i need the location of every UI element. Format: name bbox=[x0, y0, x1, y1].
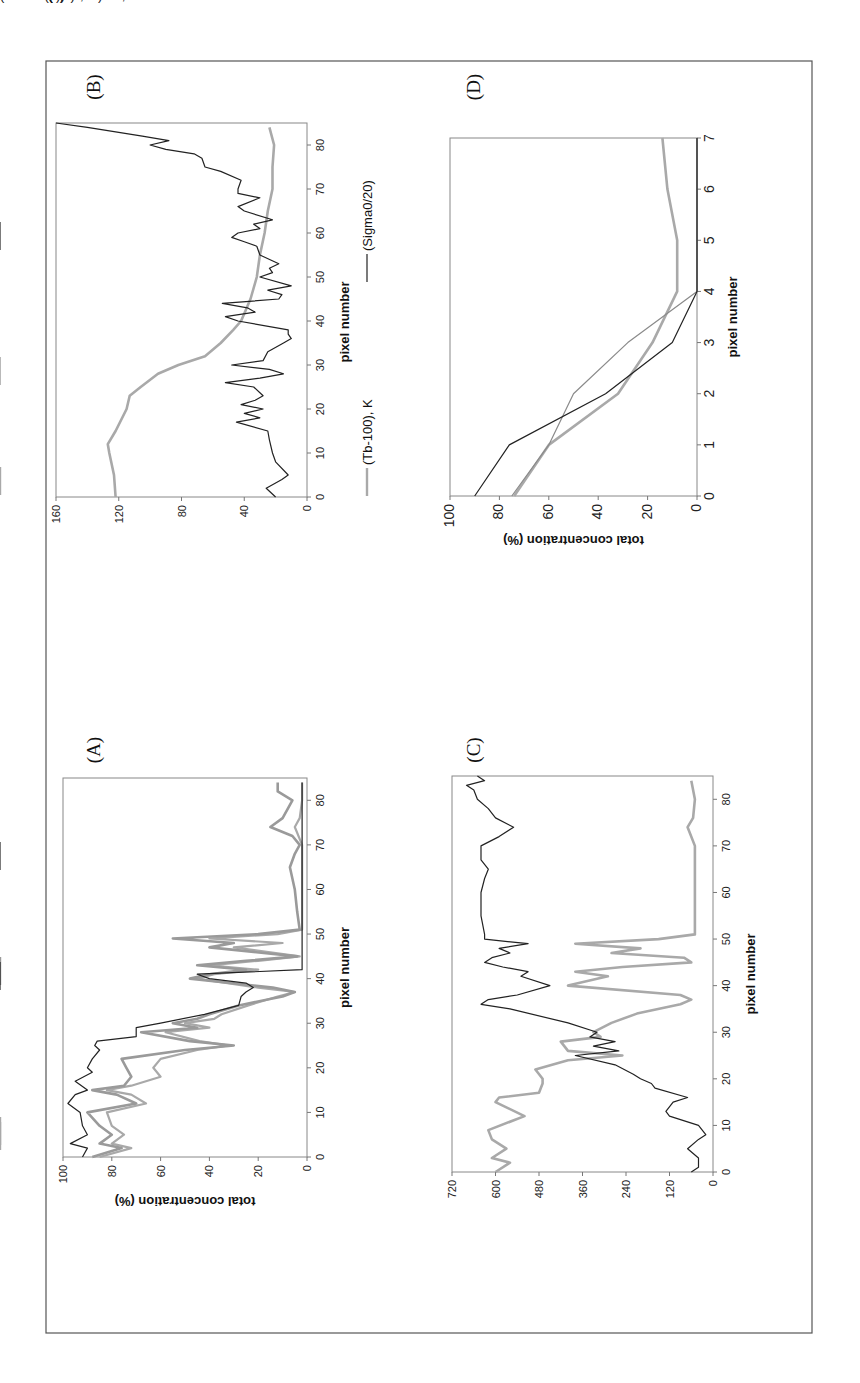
plot-area bbox=[450, 138, 697, 496]
value-tick-label: 80 bbox=[490, 504, 506, 520]
pixel-tick-label: 0 bbox=[720, 1169, 732, 1175]
pixel-tick-label: 50 bbox=[720, 933, 732, 945]
panel-label-c: (C) bbox=[463, 737, 485, 762]
pixel-tick-label: 80 bbox=[314, 794, 326, 806]
legend-label: OKEAN bbox=[0, 0, 46, 3]
x-axis-label: pixel number bbox=[725, 277, 740, 358]
value-tick-label: 60 bbox=[540, 504, 556, 520]
pixel-tick-label: 0 bbox=[314, 494, 326, 500]
pixel-tick-label: 20 bbox=[314, 1062, 326, 1074]
value-tick-label: 480 bbox=[533, 1180, 545, 1198]
value-tick-label: 40 bbox=[203, 1165, 215, 1177]
value-tick-label: 100 bbox=[441, 504, 457, 528]
pixel-tick-label: 0 bbox=[701, 492, 717, 500]
value-tick-label: 80 bbox=[176, 505, 188, 517]
value-tick-label: 0 bbox=[301, 1165, 313, 1171]
pixel-tick-label: 6 bbox=[701, 185, 717, 193]
chart-panel-b: 0408012016001020304050607080pixel number… bbox=[50, 123, 375, 523]
legend-label: (Tb-100), K bbox=[360, 399, 375, 465]
value-tick-label: 20 bbox=[639, 504, 655, 520]
pixel-tick-label: 4 bbox=[701, 287, 717, 295]
pixel-tick-label: 7 bbox=[701, 134, 717, 142]
pixel-tick-label: 80 bbox=[314, 139, 326, 151]
value-tick-label: 120 bbox=[113, 505, 125, 523]
value-tick-label: 240 bbox=[620, 1180, 632, 1198]
pixel-tick-label: 10 bbox=[314, 1106, 326, 1118]
panel-label-d: (D) bbox=[463, 74, 485, 100]
pixel-tick-label: 0 bbox=[314, 1154, 326, 1160]
x-axis-label: pixel number bbox=[337, 927, 352, 1008]
value-tick-label: 0 bbox=[301, 505, 313, 511]
pixel-tick-label: 40 bbox=[720, 980, 732, 992]
pixel-tick-label: 30 bbox=[314, 359, 326, 371]
pixel-tick-label: 40 bbox=[314, 973, 326, 985]
panel-label-a: (A) bbox=[83, 737, 105, 763]
value-tick-label: 600 bbox=[490, 1180, 502, 1198]
pixel-tick-label: 3 bbox=[701, 338, 717, 346]
value-tick-label: 360 bbox=[577, 1180, 589, 1198]
pixel-tick-label: 2 bbox=[701, 390, 717, 398]
pixel-tick-label: 40 bbox=[314, 315, 326, 327]
pixel-tick-label: 70 bbox=[720, 840, 732, 852]
pixel-tick-label: 60 bbox=[720, 886, 732, 898]
pixel-tick-label: 20 bbox=[720, 1073, 732, 1085]
pixel-tick-label: 1 bbox=[701, 441, 717, 449]
legend-label: (Sigma0/20) bbox=[360, 180, 375, 251]
pixel-tick-label: 10 bbox=[720, 1119, 732, 1131]
plot-area bbox=[63, 778, 307, 1157]
y-axis-label: total concentration (%) bbox=[503, 533, 644, 548]
value-tick-label: 100 bbox=[57, 1165, 69, 1183]
value-tick-label: 0 bbox=[688, 504, 704, 512]
pixel-tick-label: 50 bbox=[314, 928, 326, 940]
value-tick-label: 60 bbox=[155, 1165, 167, 1177]
y-axis-label: total concentration (%) bbox=[115, 1194, 256, 1209]
value-tick-label: 0 bbox=[707, 1180, 719, 1186]
pixel-tick-label: 20 bbox=[314, 403, 326, 415]
pixel-tick-label: 80 bbox=[720, 793, 732, 805]
pixel-tick-label: 70 bbox=[314, 839, 326, 851]
pixel-tick-label: 60 bbox=[314, 227, 326, 239]
x-axis-label: pixel number bbox=[337, 282, 352, 363]
pixel-tick-label: 60 bbox=[314, 883, 326, 895]
pixel-tick-label: 5 bbox=[701, 236, 717, 244]
value-tick-label: 20 bbox=[252, 1165, 264, 1177]
pixel-tick-label: 70 bbox=[314, 183, 326, 195]
value-tick-label: 40 bbox=[238, 505, 250, 517]
value-tick-label: 80 bbox=[106, 1165, 118, 1177]
value-tick-label: 120 bbox=[664, 1180, 676, 1198]
x-axis-label: pixel number bbox=[743, 934, 758, 1015]
pixel-tick-label: 10 bbox=[314, 447, 326, 459]
panel-label-b: (B) bbox=[83, 74, 105, 99]
pixel-tick-label: 30 bbox=[720, 1026, 732, 1038]
value-tick-label: 720 bbox=[446, 1180, 458, 1198]
value-tick-label: 40 bbox=[589, 504, 605, 520]
value-tick-label: 160 bbox=[50, 505, 62, 523]
figure-canvas: (B) (A) (C) (D) 020406080100010203040506… bbox=[0, 0, 860, 1383]
pixel-tick-label: 50 bbox=[314, 271, 326, 283]
pixel-tick-label: 30 bbox=[314, 1017, 326, 1029]
